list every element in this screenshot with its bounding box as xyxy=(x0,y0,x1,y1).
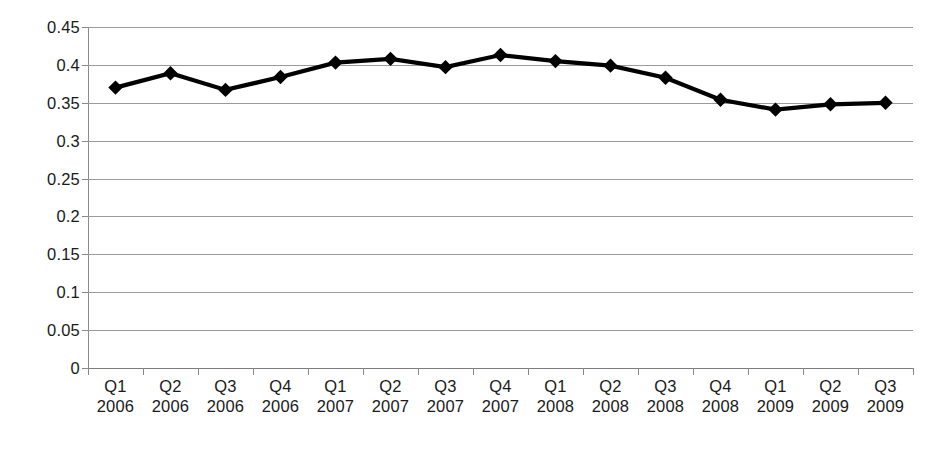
x-axis-tick-label: Q32009 xyxy=(853,376,919,416)
y-axis-tick-label: 0.4 xyxy=(6,57,80,74)
x-axis-tick-mark xyxy=(88,368,89,375)
x-axis-tick-mark xyxy=(638,368,639,375)
plot-area xyxy=(88,27,913,368)
y-axis-tick-label: 0.45 xyxy=(6,19,80,36)
x-axis-tick-mark xyxy=(473,368,474,375)
gridline xyxy=(88,292,913,293)
x-tick-quarter: Q3 xyxy=(853,376,919,396)
x-axis-tick-mark xyxy=(308,368,309,375)
y-axis-tick-mark xyxy=(82,330,88,331)
y-axis-tick-label: 0.25 xyxy=(6,171,80,188)
x-axis-tick-mark xyxy=(583,368,584,375)
gridline xyxy=(88,179,913,180)
y-axis-tick-mark xyxy=(82,216,88,217)
gridline xyxy=(88,254,913,255)
y-axis-tick-label: 0.05 xyxy=(6,322,80,339)
y-axis-tick-mark xyxy=(82,292,88,293)
gridline xyxy=(88,330,913,331)
y-axis-tick-label: 0.35 xyxy=(6,95,80,112)
gridline xyxy=(88,216,913,217)
x-axis-tick-mark xyxy=(693,368,694,375)
gridline xyxy=(88,103,913,104)
x-axis-tick-mark xyxy=(528,368,529,375)
y-axis-tick-mark xyxy=(82,103,88,104)
y-axis-tick-mark xyxy=(82,368,88,369)
y-axis-tick-labels: 00.050.10.150.20.250.30.350.40.45 xyxy=(0,0,80,458)
x-axis-tick-mark xyxy=(803,368,804,375)
x-axis-tick-mark xyxy=(913,368,914,375)
gridline xyxy=(88,368,913,369)
y-axis-tick-mark xyxy=(82,254,88,255)
y-axis-tick-mark xyxy=(82,65,88,66)
y-axis-tick-mark xyxy=(82,141,88,142)
y-axis-tick-label: 0.3 xyxy=(6,133,80,150)
gridline xyxy=(88,141,913,142)
y-axis-tick-mark xyxy=(82,27,88,28)
gridline xyxy=(88,27,913,28)
gridline xyxy=(88,65,913,66)
y-axis-tick-label: 0 xyxy=(6,360,80,377)
x-axis-tick-mark xyxy=(198,368,199,375)
x-axis-tick-mark xyxy=(748,368,749,375)
y-axis-tick-label: 0.15 xyxy=(6,246,80,263)
x-tick-year: 2009 xyxy=(853,396,919,416)
x-axis-tick-mark xyxy=(363,368,364,375)
x-axis-tick-mark xyxy=(143,368,144,375)
y-axis-tick-label: 0.2 xyxy=(6,208,80,225)
x-axis-tick-mark xyxy=(253,368,254,375)
x-axis-tick-mark xyxy=(858,368,859,375)
y-axis-tick-mark xyxy=(82,179,88,180)
x-axis-tick-mark xyxy=(418,368,419,375)
line-chart: 00.050.10.150.20.250.30.350.40.45 Q12006… xyxy=(0,0,946,458)
y-axis-tick-label: 0.1 xyxy=(6,284,80,301)
